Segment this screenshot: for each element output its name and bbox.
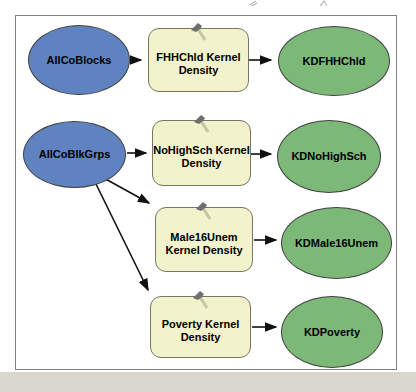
tool-poverty-kernel-density[interactable]: Poverty Kernel Density	[150, 296, 251, 358]
derived-data-kdnohighsch[interactable]: KDNoHighSch	[277, 120, 381, 193]
tool-male16unem-kernel-density[interactable]: Male16Unem Kernel Density	[155, 207, 253, 272]
node-label: FHHChld Kernel Density	[156, 51, 240, 77]
cropped-artifact-mark	[250, 1, 257, 6]
tool-fhhchld-kernel-density[interactable]: FHHChld Kernel Density	[148, 28, 249, 92]
node-label: Poverty Kernel Density	[162, 318, 240, 344]
node-label: NoHighSch Kernel Density	[153, 144, 250, 170]
node-label: KDNoHighSch	[291, 150, 366, 163]
derived-data-kdmale16unem[interactable]: KDMale16Unem	[281, 207, 392, 279]
node-label: AllCoBlocks	[47, 54, 112, 67]
node-label: KDMale16Unem	[295, 237, 378, 250]
input-data-allcoblocks[interactable]: AllCoBlocks	[28, 25, 130, 95]
tool-nohighsch-kernel-density[interactable]: NoHighSch Kernel Density	[152, 120, 251, 186]
node-label: Male16Unem Kernel Density	[165, 231, 242, 257]
modelbuilder-diagram: AllCoBlocks FHHChld Kernel Density KDFHH…	[0, 0, 416, 392]
hammer-icon	[190, 290, 212, 312]
node-label: AllCoBlkGrps	[39, 148, 111, 161]
hammer-icon	[188, 22, 210, 44]
input-data-allcoblkgrps[interactable]: AllCoBlkGrps	[23, 121, 126, 188]
derived-data-kdfhhchld[interactable]: KDFHHChld	[278, 26, 390, 96]
derived-data-kdpoverty[interactable]: KDPoverty	[281, 296, 383, 368]
hammer-icon	[193, 201, 215, 223]
node-label: KDPoverty	[304, 326, 360, 339]
page-background-strip	[0, 372, 416, 392]
cropped-artifact-mark	[320, 1, 327, 6]
node-label: KDFHHChld	[303, 55, 366, 68]
hammer-icon	[191, 114, 213, 136]
